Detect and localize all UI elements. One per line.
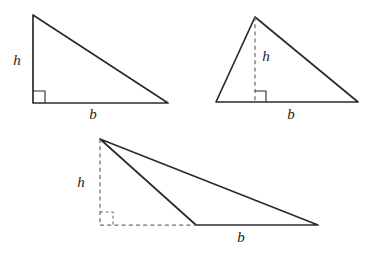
triangles-diagram: h b h b h b bbox=[0, 0, 376, 256]
right-triangle-group: h b bbox=[13, 15, 168, 122]
base-label-triangle-3: b bbox=[237, 229, 245, 245]
height-label-triangle-3: h bbox=[77, 174, 85, 190]
base-label-triangle-2: b bbox=[287, 106, 295, 122]
triangles-canvas: h b h b h b bbox=[0, 0, 376, 256]
acute-triangle-group: h b bbox=[216, 17, 358, 122]
height-label-triangle-1: h bbox=[13, 52, 21, 68]
base-label-triangle-1: b bbox=[89, 106, 97, 122]
height-label-triangle-2: h bbox=[262, 48, 270, 64]
right-angle-marker-icon bbox=[100, 212, 113, 225]
obtuse-triangle-group: h b bbox=[77, 139, 318, 245]
acute-triangle-face bbox=[216, 17, 358, 102]
